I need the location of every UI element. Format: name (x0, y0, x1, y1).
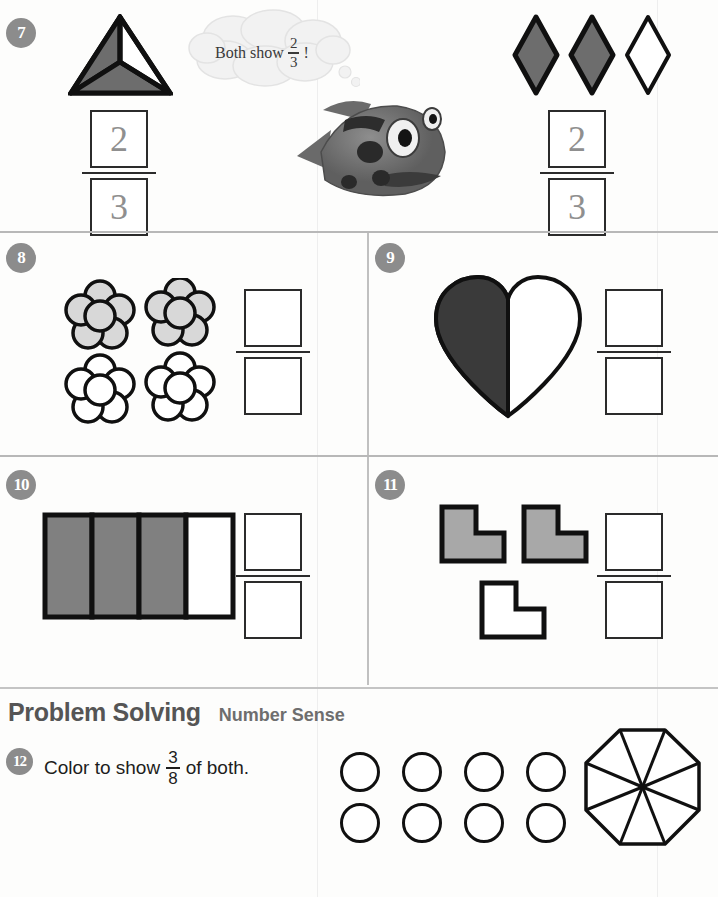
column-divider (367, 457, 369, 685)
answer-fraction-10[interactable] (244, 513, 302, 639)
answer-denominator-box[interactable] (244, 357, 302, 415)
circle-item[interactable] (402, 803, 442, 843)
speech-bubble-text: Both show 2 3 ! (215, 36, 340, 70)
badge-label: 8 (17, 248, 25, 268)
answer-numerator: 2 (568, 118, 586, 160)
answer-denominator-box[interactable]: 3 (90, 178, 148, 236)
fish-mascot-icon (285, 90, 460, 210)
fraction-divider-bar (82, 172, 156, 174)
section-divider (0, 687, 718, 689)
circle-item[interactable] (464, 752, 504, 792)
section-divider (0, 231, 718, 233)
answer-numerator-box[interactable] (244, 289, 302, 347)
page-subtitle: Number Sense (219, 705, 345, 726)
circle-item[interactable] (340, 752, 380, 792)
four-flowers-figure (62, 278, 222, 432)
answer-numerator-box[interactable]: 2 (548, 110, 606, 168)
fraction-denominator: 3 (288, 55, 300, 70)
octagon-eighths-figure (575, 728, 710, 872)
heart-halves-figure (428, 271, 588, 425)
fraction-denominator: 8 (166, 770, 179, 787)
answer-denominator-box[interactable] (605, 357, 663, 415)
answer-numerator-box[interactable] (244, 513, 302, 571)
three-diamonds-figure (512, 14, 672, 100)
badge-label: 11 (383, 475, 397, 495)
fraction-divider-bar (236, 351, 310, 353)
circle-item[interactable] (402, 752, 442, 792)
problem-number-badge-9: 9 (375, 243, 405, 273)
problem-12-instruction: Color to show 3 8 of both. (44, 749, 249, 787)
badge-label: 10 (14, 475, 29, 495)
answer-numerator-box[interactable] (605, 289, 663, 347)
fraction-divider-bar (597, 575, 671, 577)
fraction-divider-bar (597, 351, 671, 353)
badge-label: 7 (17, 23, 25, 43)
page-footer (0, 874, 718, 897)
speech-fraction: 2 3 (288, 36, 300, 70)
speech-text-after: ! (303, 44, 308, 62)
answer-fraction-9[interactable] (605, 289, 663, 415)
problem-number-badge-12: 12 (6, 748, 33, 775)
problem-number-badge-11: 11 (375, 470, 405, 500)
circle-item[interactable] (526, 752, 566, 792)
answer-denominator-box[interactable]: 3 (548, 178, 606, 236)
answer-fraction-left[interactable]: 2 3 (90, 110, 148, 236)
answer-denominator: 3 (110, 186, 128, 228)
answer-fraction-11[interactable] (605, 513, 663, 639)
fraction-numerator: 2 (288, 36, 300, 51)
answer-fraction-right[interactable]: 2 3 (548, 110, 606, 236)
circle-item[interactable] (340, 803, 380, 843)
badge-label: 12 (13, 753, 26, 770)
triangle-thirds-figure (68, 14, 173, 100)
circle-row-bottom (340, 803, 566, 843)
answer-numerator: 2 (110, 118, 128, 160)
answer-denominator-box[interactable] (605, 581, 663, 639)
column-divider (367, 233, 369, 455)
section-divider (0, 455, 718, 457)
speech-bubble: Both show 2 3 ! (185, 8, 360, 94)
instruction-text-after: of both. (186, 757, 249, 779)
instruction-text-before: Color to show (44, 757, 160, 779)
circle-item[interactable] (464, 803, 504, 843)
answer-denominator-box[interactable] (244, 581, 302, 639)
problem-number-badge-10: 10 (6, 470, 36, 500)
three-l-shapes-figure (438, 503, 598, 652)
instruction-fraction: 3 8 (166, 749, 179, 787)
speech-text-before: Both show (215, 44, 284, 62)
answer-numerator-box[interactable]: 2 (90, 110, 148, 168)
answer-numerator-box[interactable] (605, 513, 663, 571)
fraction-numerator: 3 (166, 749, 179, 766)
problem-solving-header: Problem Solving Number Sense (8, 698, 345, 727)
circle-row-top (340, 752, 566, 792)
answer-fraction-8[interactable] (244, 289, 302, 415)
badge-label: 9 (386, 248, 394, 268)
page-title: Problem Solving (8, 698, 201, 727)
rectangle-fourths-figure (42, 512, 238, 624)
answer-denominator: 3 (568, 186, 586, 228)
fraction-divider-bar (540, 172, 614, 174)
circle-item[interactable] (526, 803, 566, 843)
problem-number-badge-7: 7 (6, 18, 36, 48)
worksheet-page: 7 Both show (0, 0, 718, 897)
problem-number-badge-8: 8 (6, 243, 36, 273)
fraction-divider-bar (236, 575, 310, 577)
